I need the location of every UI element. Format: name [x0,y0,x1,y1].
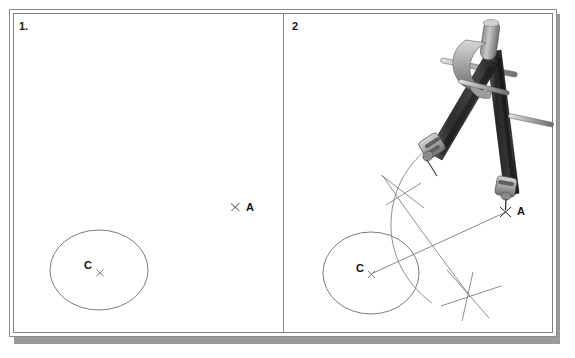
point-label-a-panel1: A [246,201,254,213]
panel-number-2: 2 [292,20,298,32]
point-label-a-panel2: A [517,205,525,217]
geometry-construction-figure: 1. 2 A C A C [0,0,575,358]
point-label-c-panel1: C [84,259,92,271]
point-label-c-panel2: C [356,262,364,274]
panel-number-1: 1. [19,20,28,32]
panel-divider [283,14,284,332]
